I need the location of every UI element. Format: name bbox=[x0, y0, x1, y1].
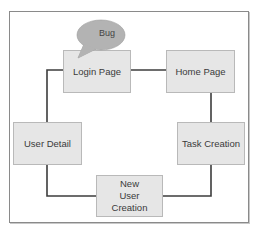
node-label: User Detail bbox=[24, 138, 71, 150]
bug-callout-label: Bug bbox=[92, 28, 122, 38]
node-new-user-creation: New User Creation bbox=[96, 175, 163, 217]
edge-userdetail-login bbox=[47, 70, 63, 122]
node-task-creation: Task Creation bbox=[177, 122, 245, 165]
edge-task-newuser bbox=[163, 165, 211, 196]
node-login-page: Login Page bbox=[63, 50, 131, 93]
node-user-detail: User Detail bbox=[13, 122, 82, 165]
node-label: Task Creation bbox=[182, 138, 240, 150]
node-home-page: Home Page bbox=[166, 50, 235, 93]
node-label: Login Page bbox=[73, 66, 121, 78]
edge-newuser-userdetail bbox=[47, 165, 96, 196]
node-label: Home Page bbox=[175, 66, 225, 78]
node-label: New User Creation bbox=[111, 178, 148, 214]
